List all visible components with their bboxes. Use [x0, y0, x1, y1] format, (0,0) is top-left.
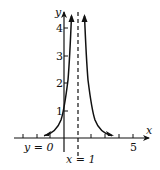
arrow-right-bottom: [106, 131, 114, 136]
arrow-left-top: [69, 14, 75, 22]
horizontal-asymptote-label: y = 0: [23, 141, 53, 154]
y-tick-label-4: 4: [56, 22, 63, 35]
vertical-asymptote-label: x = 1: [66, 153, 95, 166]
curve-right-branch: [85, 16, 113, 136]
y-tick-label-1: 1: [56, 105, 63, 118]
x-axis-label: x: [146, 124, 153, 137]
y-tick-label-3: 3: [56, 50, 63, 63]
y-axis-label: y: [54, 6, 62, 19]
x-tick-label-5: 5: [130, 141, 137, 154]
arrow-right-top: [82, 14, 88, 22]
graph: y x 4 3 2 1 5 y = 0 x = 1: [0, 0, 160, 170]
y-tick-label-2: 2: [56, 77, 63, 90]
